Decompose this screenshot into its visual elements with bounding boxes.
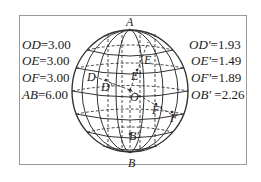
point-label-d-prime: D' xyxy=(101,81,112,93)
point-label-b: B xyxy=(128,157,135,169)
measure-oe: OE=3.00 xyxy=(22,54,69,67)
point-label-a: A xyxy=(126,16,133,28)
point-label-e: E xyxy=(144,54,151,66)
measure-ab: AB=6.00 xyxy=(22,88,68,101)
point-label-f: F xyxy=(170,112,177,124)
measure-od-prime: OD'=1.93 xyxy=(189,38,241,51)
measure-od: OD=3.00 xyxy=(22,38,71,51)
measure-of-prime: OF'=1.89 xyxy=(191,71,241,84)
point-label-f-prime: F' xyxy=(152,104,162,116)
point-label-e-prime: E' xyxy=(131,70,141,82)
measure-of: OF=3.00 xyxy=(22,71,69,84)
point-label-o: O xyxy=(130,91,139,103)
measure-ob-prime: OB' =2.26 xyxy=(191,88,244,101)
point-label-d: D xyxy=(87,71,96,83)
measure-oe-prime: OE'=1.49 xyxy=(191,54,241,67)
point-label-b-prime: B' xyxy=(129,130,139,142)
